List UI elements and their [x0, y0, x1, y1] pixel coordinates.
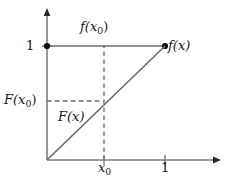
axes-group [44, 8, 221, 163]
x-axis-label-x0: x0 [98, 161, 111, 176]
x-axis-label-x0-subscript: 0 [105, 166, 111, 177]
density-label-f-x0: f(x0) [80, 20, 108, 35]
density-label-f-x: f(x) [168, 39, 190, 52]
cdf-value-label-F-x0: F(x0) [4, 93, 36, 108]
x-axis-label-one: 1 [161, 161, 169, 174]
cdf-value-label-F-x0-close: ) [31, 92, 36, 107]
y-axis-label-one: 1 [26, 39, 34, 52]
density-label-f-x0-close: ) [103, 19, 108, 34]
uniform-distribution-figure: 1 f(x0) f(x) F(x0) F(x) x0 1 [0, 0, 228, 185]
x-axis-arrowhead [213, 157, 221, 164]
y-axis-arrowhead [44, 8, 51, 16]
cdf-line-group [47, 46, 165, 160]
guide-lines-group [47, 46, 104, 160]
density-line-group [44, 43, 168, 49]
cdf-label-F-x: F(x) [58, 110, 85, 123]
density-endpoint-left-marker [44, 43, 50, 49]
cdf-value-label-F-x0-head: F(x [4, 92, 25, 107]
density-label-f-x0-head: f(x [80, 19, 97, 34]
cdf-line-Fx [47, 46, 165, 160]
